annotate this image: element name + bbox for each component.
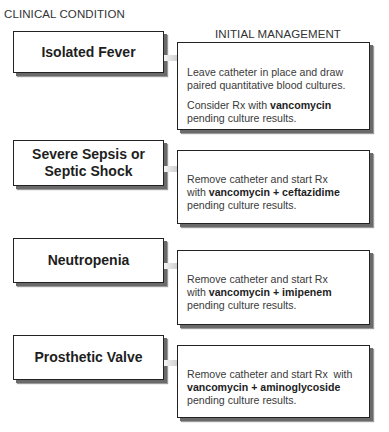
management-text: Remove catheter and start Rx withvancomy… — [187, 368, 365, 407]
management-text: Remove catheter and start Rxwith vancomy… — [187, 173, 365, 212]
condition-box-isolated-fever: Isolated Fever — [13, 31, 164, 73]
management-box-neutropenia: Remove catheter and start Rxwith vancomy… — [177, 250, 370, 325]
condition-label: Severe Sepsis orSeptic Shock — [32, 146, 145, 180]
drug-name: vancomycin + ceftazidime — [209, 186, 340, 198]
condition-label: Isolated Fever — [41, 44, 135, 61]
drug-name: vancomycin — [270, 99, 331, 111]
clinical-condition-header: CLINICAL CONDITION — [4, 8, 125, 20]
management-text: Remove catheter and start Rxwith vancomy… — [187, 273, 365, 312]
drug-name: vancomycin + imipenem — [209, 286, 332, 298]
management-text: Consider Rx with vancomycinpending cultu… — [187, 99, 365, 125]
condition-box-neutropenia: Neutropenia — [13, 238, 164, 283]
condition-label: Prosthetic Valve — [34, 349, 142, 366]
condition-box-severe-sepsis: Severe Sepsis orSeptic Shock — [13, 140, 164, 186]
management-text: Leave catheter in place and draw paired … — [187, 66, 365, 92]
condition-label: Neutropenia — [48, 252, 130, 269]
drug-name: vancomycin + aminoglycoside — [187, 381, 340, 393]
management-box-isolated-fever: Leave catheter in place and draw paired … — [177, 42, 370, 130]
management-box-severe-sepsis: Remove catheter and start Rxwith vancomy… — [177, 150, 370, 224]
initial-management-header: INITIAL MANAGEMENT — [215, 28, 341, 40]
management-box-prosthetic-valve: Remove catheter and start Rx withvancomy… — [177, 345, 370, 418]
condition-box-prosthetic-valve: Prosthetic Valve — [13, 335, 164, 380]
